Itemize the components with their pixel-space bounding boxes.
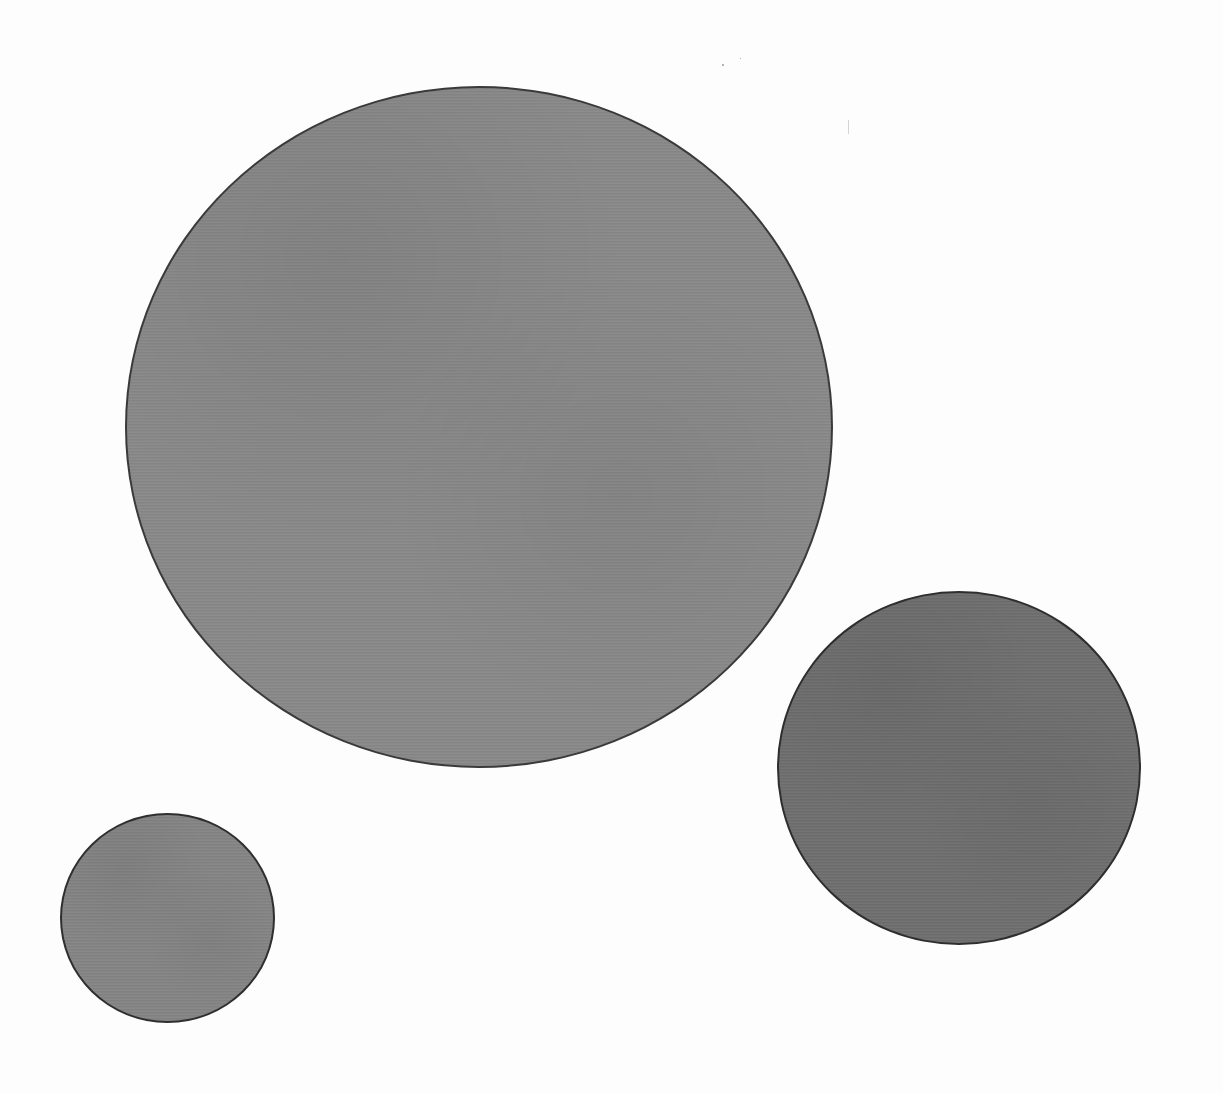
medium-gray-circle — [777, 591, 1141, 945]
scene-canvas — [0, 0, 1223, 1093]
paper-speck — [740, 58, 741, 59]
large-gray-circle — [125, 86, 833, 768]
paper-speck — [722, 64, 724, 66]
small-gray-circle — [60, 813, 275, 1023]
paper-mark — [848, 120, 849, 134]
